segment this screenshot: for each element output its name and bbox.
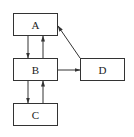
node-c: C [14, 104, 58, 126]
edge-d-to-a [58, 26, 80, 58]
flow-diagram: A B C D [0, 0, 134, 137]
node-d: D [81, 59, 125, 81]
node-a-label: A [32, 19, 40, 31]
node-b: B [14, 59, 58, 81]
node-d-label: D [99, 64, 107, 76]
node-b-label: B [32, 64, 39, 76]
node-a: A [14, 14, 58, 36]
node-c-label: C [32, 109, 39, 121]
